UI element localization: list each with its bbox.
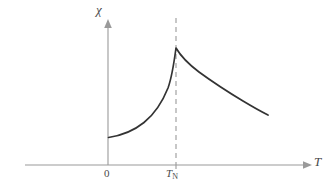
susceptibility-vs-temperature-figure: χ T 0 TN: [0, 0, 333, 194]
susceptibility-curve: [109, 48, 269, 138]
tick-tn-subscript: N: [172, 172, 178, 181]
x-axis-tick-label-zero: 0: [104, 167, 110, 179]
x-axis-label: T: [314, 154, 321, 170]
x-axis-arrowhead: [303, 161, 312, 169]
x-axis-tick-label-neel-temperature: TN: [166, 167, 178, 181]
y-axis-label: χ: [96, 2, 102, 18]
y-axis-arrowhead: [104, 19, 112, 28]
plot-canvas: [0, 0, 333, 194]
